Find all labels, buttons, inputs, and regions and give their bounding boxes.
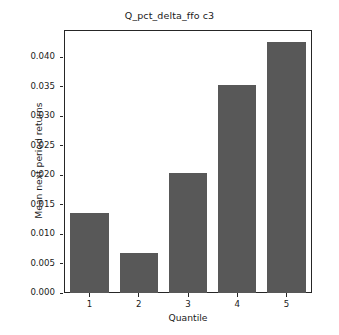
y-axis-label: Mean next period returns [33,61,44,261]
x-tick-label: 3 [185,299,190,309]
chart-screenshot: Q_pct_delta_ffo c3 0.0000.0050.0100.0150… [0,0,339,335]
chart-title: Q_pct_delta_ffo c3 [0,10,339,21]
y-tick-mark [60,86,64,87]
x-tick-mark [138,293,139,297]
y-tick-mark [60,175,64,176]
y-tick-mark [60,116,64,117]
x-tick-mark [89,293,90,297]
x-tick-mark [286,293,287,297]
y-tick-mark [60,263,64,264]
y-tick-mark [60,204,64,205]
y-tick-mark [60,145,64,146]
y-tick-label: 0.000 [30,287,55,297]
x-tick-label: 1 [87,299,92,309]
y-tick-mark [60,57,64,58]
x-tick-label: 5 [284,299,289,309]
x-tick-mark [188,293,189,297]
plot-area [64,30,312,293]
x-tick-label: 4 [234,299,239,309]
x-axis-label: Quantile [64,312,312,323]
y-tick-mark [60,293,64,294]
x-tick-mark [237,293,238,297]
y-tick-mark [60,234,64,235]
x-tick-label: 2 [136,299,141,309]
